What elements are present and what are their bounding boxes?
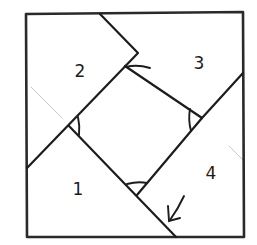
piece-1-label: 1 xyxy=(73,179,84,199)
piece-4-label: 4 xyxy=(206,163,217,183)
angle-mark-left xyxy=(78,117,79,135)
angle-mark-top xyxy=(126,66,150,68)
arrow-icon xyxy=(168,196,184,221)
central-bottom-left-edge xyxy=(69,126,176,237)
outer-square xyxy=(26,12,244,237)
piece-3-boundary xyxy=(202,73,243,118)
piece-2-label: 2 xyxy=(75,61,86,81)
piece-3-label: 3 xyxy=(194,53,205,73)
angle-mark-bottom xyxy=(127,182,147,184)
angle-marks xyxy=(78,66,191,184)
angle-mark-right xyxy=(189,109,191,131)
piece-2-boundary xyxy=(27,14,138,168)
faint-guide-lines xyxy=(31,87,243,160)
geometry-diagram: 2 3 1 4 xyxy=(0,0,257,245)
